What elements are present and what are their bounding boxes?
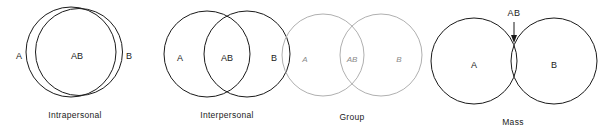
annotation-label-ab: AB bbox=[508, 8, 521, 18]
region-label-ab: AB bbox=[221, 53, 233, 63]
panel-intrapersonal: A AB B Intrapersonal bbox=[0, 0, 150, 127]
region-label-a: A bbox=[471, 60, 477, 70]
caption-intrapersonal: Intrapersonal bbox=[0, 110, 150, 120]
region-label-b: B bbox=[396, 55, 401, 64]
annotation-arrow-head bbox=[511, 35, 517, 43]
region-label-b: B bbox=[551, 60, 557, 70]
region-label-a: A bbox=[177, 53, 183, 63]
group-venn-svg bbox=[272, 0, 432, 105]
region-label-a: A bbox=[16, 51, 22, 61]
caption-mass: Mass bbox=[424, 117, 602, 127]
region-label-ab: AB bbox=[71, 51, 83, 61]
caption-group: Group bbox=[272, 112, 432, 122]
region-label-ab: AB bbox=[347, 55, 358, 64]
panel-mass: AB A B Mass bbox=[424, 0, 602, 127]
region-label-b: B bbox=[126, 51, 132, 61]
panel-group: A AB B Group bbox=[272, 0, 432, 127]
region-label-a: A bbox=[302, 55, 307, 64]
venn-diagram-figure: A AB B Intrapersonal A AB B Interpersona… bbox=[0, 0, 602, 127]
